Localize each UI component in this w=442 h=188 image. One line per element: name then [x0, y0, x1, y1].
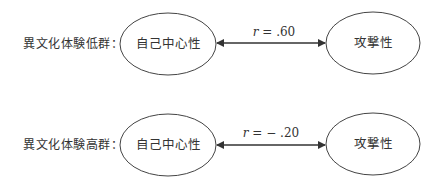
node-label-aggression-high: 攻撃性 — [354, 137, 393, 151]
node-label-egocentrism-low: 自己中心性 — [136, 37, 201, 51]
corr-value: = − .20 — [249, 126, 300, 140]
correlation-label-high: r = − .20 — [243, 126, 299, 140]
corr-value: = .60 — [258, 25, 295, 39]
group-label-low: 異文化体験低群： — [23, 37, 123, 51]
node-label-egocentrism-high: 自己中心性 — [136, 138, 201, 152]
correlation-diagram: 異文化体験低群： 自己中心性 攻撃性 r = .60 異文化体験高群： 自己中心… — [0, 0, 442, 188]
node-label-aggression-low: 攻撃性 — [354, 36, 393, 50]
diagram-shapes — [0, 0, 442, 188]
correlation-label-low: r = .60 — [253, 25, 296, 39]
group-label-high: 異文化体験高群： — [23, 138, 123, 152]
